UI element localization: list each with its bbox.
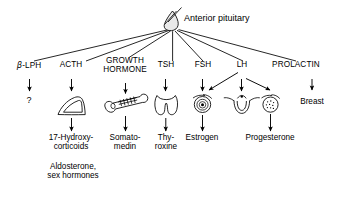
corpus-luteum-icon — [262, 95, 280, 112]
arrow-lh-to-corpus-luteum — [246, 79, 270, 91]
product-thyroxine-line2: roxine — [155, 142, 177, 151]
hormone-to-organ-arrows — [30, 79, 313, 94]
hormone-label-b-lph: β-LPH — [17, 61, 42, 71]
anterior-pituitary-diagram: Anterior pituitary β-LPH ACTH GROWTHHORM… — [0, 0, 339, 198]
adrenal-gland-icon — [58, 97, 85, 115]
product-label-estrogen: Estrogen — [186, 134, 219, 143]
hormone-label-gh-line2: HORMONE — [103, 65, 146, 74]
corpus-luteum-stipple — [266, 100, 275, 109]
product-label-somatomedin: Somato-medin — [110, 134, 141, 151]
arrow-lh-to-ovary — [209, 73, 238, 91]
product-somatomedin-line2: medin — [114, 142, 136, 151]
hormone-label-fsh: FSH — [195, 61, 212, 70]
hormone-label-tsh: TSH — [158, 61, 175, 70]
pituitary-radiating-lines — [34, 30, 296, 61]
uterus-icon — [224, 95, 260, 113]
ovarian-follicle-icon — [193, 95, 212, 113]
lh-branch-arrows — [209, 73, 270, 92]
hormone-label-acth: ACTH — [60, 61, 83, 70]
hormone-label-b-lph-rest: -LPH — [22, 61, 41, 70]
line-to-growth-hormone — [129, 31, 171, 58]
pituitary-gland-icon — [164, 8, 181, 31]
hormone-label-lh: LH — [237, 61, 248, 70]
product-corticoids-line2: corticoids — [54, 142, 89, 151]
product-label-progesterone: Progesterone — [245, 134, 294, 143]
thyroid-gland-icon — [155, 96, 178, 115]
page-title: Anterior pituitary — [184, 14, 250, 23]
line-to-prolactin — [179, 30, 297, 61]
product-label-thyroxine: Thy-roxine — [155, 134, 177, 151]
product-label-unknown: ? — [26, 96, 31, 105]
product-label-corticoids: 17-Hydroxy-corticoids — [49, 134, 94, 151]
hormone-label-growth-hormone: GROWTHHORMONE — [103, 57, 146, 74]
line-to-lh — [177, 30, 243, 61]
organ-label-breast: Breast — [300, 98, 324, 107]
secondary-product-line2: sex hormones — [47, 171, 98, 180]
secondary-product-label-adrenal: Aldosterone,sex hormones — [47, 163, 98, 180]
bone-icon — [105, 94, 148, 112]
hormone-label-prolactin: PROLACTIN — [272, 61, 320, 70]
organ-to-product-arrows — [72, 114, 271, 131]
